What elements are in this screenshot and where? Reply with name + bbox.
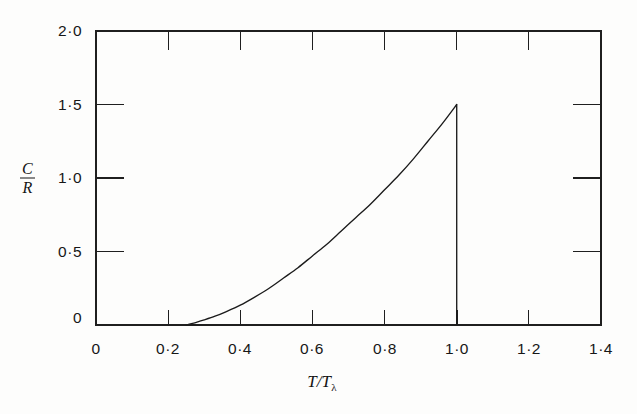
x-tick-label-5: 1·0	[445, 340, 469, 358]
y-axis-title-numerator: C	[20, 161, 35, 178]
x-axis-title-subscript: λ	[331, 381, 337, 393]
y-axis-title: C R	[20, 161, 35, 196]
x-tick-label-2: 0·4	[228, 340, 252, 358]
x-tick-label-0: 0	[91, 340, 100, 358]
x-tick-label-6: 1·2	[517, 340, 541, 358]
y-axis-title-denominator: R	[20, 178, 35, 196]
x-tick-label-1: 0·2	[156, 340, 180, 358]
y-tick-label-4: 2·0	[36, 22, 82, 40]
x-tick-label-3: 0·6	[300, 340, 324, 358]
axis-ticks	[96, 31, 601, 325]
data-curve-c-over-r	[186, 105, 457, 326]
y-tick-label-3: 1·5	[36, 96, 82, 114]
x-tick-label-7: 1·4	[589, 340, 613, 358]
y-tick-label-2: 1·0	[36, 169, 82, 187]
x-axis-title-main: T/T	[307, 372, 331, 391]
x-axis-title: T/Tλ	[307, 372, 336, 393]
axis-frame	[96, 31, 601, 325]
y-tick-label-0: 0	[46, 309, 82, 327]
x-tick-label-4: 0·8	[373, 340, 397, 358]
figure-container: 0 0·2 0·4 0·6 0·8 1·0 1·2 1·4 0 0·5 1·0 …	[0, 0, 637, 414]
y-tick-label-1: 0·5	[36, 243, 82, 261]
